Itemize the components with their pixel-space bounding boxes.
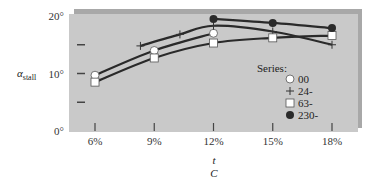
y-tick-label: 10° (49, 68, 64, 80)
legend-item: 00 (286, 73, 310, 85)
filled-circle-marker-icon (210, 15, 218, 23)
x-tick-label: 9% (147, 135, 162, 147)
y-tick-label: 0° (54, 125, 64, 137)
open-square-marker-icon (150, 54, 158, 62)
open-square-marker-icon (91, 78, 99, 86)
y-tick-label: 20° (49, 10, 64, 22)
open-square-marker-icon (328, 32, 336, 40)
legend-item: 63- (286, 97, 313, 109)
x-tick-label: 18% (322, 135, 342, 147)
x-axis-title-numerator: t (212, 154, 216, 166)
open-circle-marker-icon (210, 29, 218, 37)
filled-circle-marker-icon (286, 111, 294, 119)
filled-circle-marker-icon (328, 24, 336, 32)
open-square-marker-icon (269, 34, 277, 42)
legend-label: 230- (298, 109, 319, 121)
x-tick-label: 6% (88, 135, 103, 147)
chart: 0°10°20°6%9%12%15%18% Series:0024-63-230… (0, 0, 386, 182)
x-tick-label: 15% (263, 135, 283, 147)
x-tick-label: 12% (203, 135, 223, 147)
open-circle-marker-icon (150, 47, 158, 55)
filled-circle-marker-icon (269, 19, 277, 27)
legend-label: 00 (298, 73, 310, 85)
legend-label: 63- (298, 97, 313, 109)
y-axis-title: αstall (17, 67, 37, 82)
open-square-marker-icon (210, 39, 218, 47)
legend-label: 24- (298, 85, 313, 97)
legend-title: Series: (257, 62, 287, 74)
x-axis-title-denominator: C (210, 167, 218, 179)
open-square-marker-icon (286, 99, 294, 107)
open-circle-marker-icon (286, 75, 294, 83)
y-axis-title-sub: stall (23, 73, 37, 82)
